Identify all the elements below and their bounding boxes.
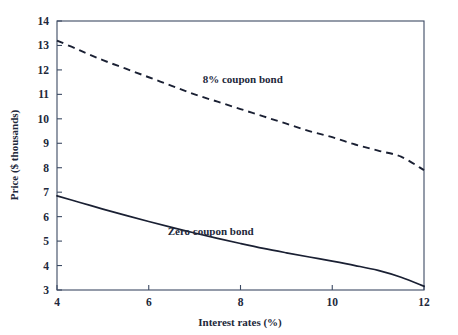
- y-tick-label: 12: [38, 64, 50, 76]
- y-tick-label: 13: [38, 39, 50, 51]
- y-axis-title: Price ($ thousands): [8, 109, 21, 200]
- series-line-8-percent-coupon-bond: [57, 41, 424, 171]
- series-label-8-percent-coupon-bond: 8% coupon bond: [203, 73, 283, 85]
- y-tick-label: 9: [43, 137, 49, 149]
- y-tick-label: 3: [43, 284, 49, 296]
- y-tick-label: 11: [38, 88, 49, 100]
- series-label-zero-coupon-bond: Zero coupon bond: [168, 225, 254, 237]
- y-tick-label: 4: [43, 260, 49, 272]
- x-tick-label: 6: [146, 296, 152, 308]
- bond-price-chart: 4681012 34567891011121314 8% coupon bond…: [0, 0, 458, 335]
- x-axis-title: Interest rates (%): [198, 316, 282, 329]
- plot-frame: [57, 21, 424, 290]
- x-axis-ticks: 4681012: [54, 285, 430, 308]
- y-tick-label: 8: [43, 162, 49, 174]
- x-tick-label: 8: [238, 296, 244, 308]
- y-tick-label: 6: [43, 211, 49, 223]
- y-axis-ticks: 34567891011121314: [38, 15, 63, 296]
- x-tick-label: 10: [327, 296, 339, 308]
- y-tick-label: 5: [43, 235, 49, 247]
- x-tick-label: 12: [418, 296, 430, 308]
- y-tick-label: 10: [38, 113, 50, 125]
- series-line-zero-coupon-bond: [57, 196, 424, 286]
- y-tick-label: 7: [43, 186, 49, 198]
- x-tick-label: 4: [54, 296, 60, 308]
- y-tick-label: 14: [38, 15, 50, 27]
